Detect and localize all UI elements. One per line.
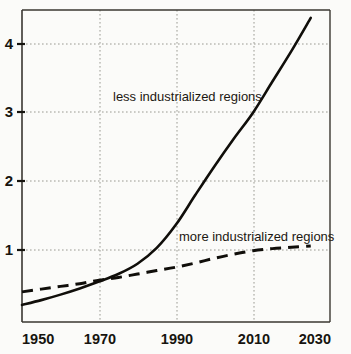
xtick-label-2030: 2030 <box>299 331 331 347</box>
chart-background <box>0 0 351 354</box>
xtick-label-1970: 1970 <box>84 331 116 347</box>
xtick-label-2010: 2010 <box>238 331 270 347</box>
ytick-label-4: 4 <box>5 35 14 52</box>
series-annotation-less-industrialized: less industrialized regions <box>113 89 262 104</box>
population-growth-line-chart: 4 3 2 1 1950 1970 1990 2010 2030 less in… <box>0 0 351 354</box>
chart-page: 4 3 2 1 1950 1970 1990 2010 2030 less in… <box>0 0 351 354</box>
ytick-label-1: 1 <box>5 241 13 258</box>
series-annotation-more-industrialized: more industrialized regions <box>179 229 335 244</box>
xtick-label-1950: 1950 <box>22 331 54 347</box>
ytick-label-3: 3 <box>5 103 13 120</box>
ytick-label-2: 2 <box>5 172 13 189</box>
xtick-label-1990: 1990 <box>161 331 193 347</box>
